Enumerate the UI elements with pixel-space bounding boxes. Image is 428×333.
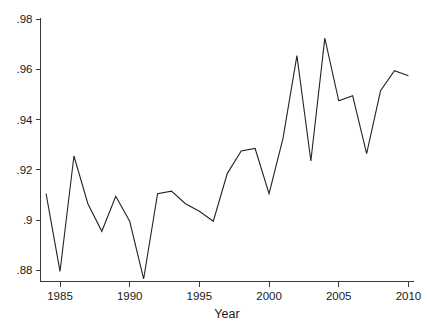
x-tick-marks	[60, 282, 408, 287]
line-chart: .88.9.92.94.96.98 1985199019952000200520…	[0, 0, 428, 333]
y-tick-labels: .88.9.92.94.96.98	[17, 13, 34, 276]
x-tick-label: 1985	[47, 290, 73, 302]
data-series-line	[46, 38, 408, 279]
x-tick-labels: 198519901995200020052010	[47, 290, 421, 302]
x-tick-label: 2000	[256, 290, 282, 302]
x-tick-label: 1995	[187, 290, 213, 302]
y-tick-marks	[36, 19, 41, 270]
chart-figure: .88.9.92.94.96.98 1985199019952000200520…	[0, 0, 428, 333]
y-tick-label: .96	[17, 63, 33, 75]
x-tick-label: 1990	[117, 290, 143, 302]
y-tick-label: .88	[17, 264, 33, 276]
y-tick-label: .94	[17, 114, 34, 126]
x-axis-title: Year	[214, 307, 239, 321]
y-tick-label: .9	[23, 214, 33, 226]
x-tick-label: 2005	[326, 290, 352, 302]
y-tick-label: .92	[17, 164, 33, 176]
x-tick-label: 2010	[396, 290, 422, 302]
y-tick-label: .98	[17, 13, 33, 25]
